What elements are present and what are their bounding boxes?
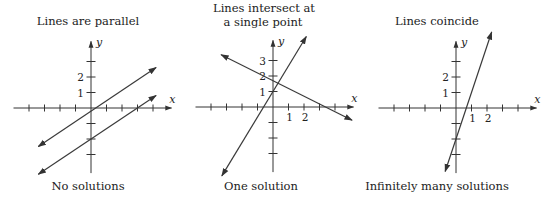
- y-axis-label: y: [277, 35, 285, 48]
- panel-title-line-1: Lines intersect at: [213, 1, 315, 15]
- graph-line: [445, 32, 492, 172]
- panel-title: Lines coincide: [395, 14, 479, 28]
- parallel-plot: 12xy: [14, 36, 177, 174]
- panel-parallel: Lines are parallel 12xy No solutions: [14, 14, 177, 193]
- x-tick-label: 1: [469, 112, 476, 124]
- y-tick-label: 1: [259, 86, 266, 98]
- y-tick-label: 2: [442, 71, 449, 83]
- panel-caption: One solution: [224, 179, 298, 193]
- x-axis-label: x: [169, 93, 176, 106]
- y-tick-label: 2: [77, 71, 84, 83]
- panel-title-line-2: a single point: [224, 15, 303, 29]
- x-tick-label: 2: [485, 112, 492, 124]
- y-axis-label: y: [460, 36, 468, 49]
- panel-caption: No solutions: [51, 179, 124, 193]
- intersect-plot: 12312xy: [196, 35, 359, 176]
- y-tick-label: 3: [259, 55, 266, 67]
- x-axis-label: x: [534, 93, 541, 106]
- panel-title: Lines are parallel: [37, 14, 140, 28]
- panel-caption: Infinitely many solutions: [365, 179, 509, 193]
- panel-intersect: Lines intersect at a single point 12312x…: [196, 1, 359, 193]
- y-tick-label: 1: [442, 87, 449, 99]
- panel-coincide: Lines coincide 1212xy Infinitely many so…: [365, 14, 541, 193]
- y-tick-label: 1: [77, 87, 84, 99]
- x-tick-label: 1: [286, 111, 293, 123]
- linear-systems-diagram: Lines are parallel 12xy No solutions Lin…: [0, 0, 548, 203]
- y-axis-label: y: [95, 36, 103, 49]
- x-tick-label: 2: [302, 111, 309, 123]
- coincide-plot: 1212xy: [379, 32, 542, 173]
- x-axis-label: x: [351, 92, 358, 105]
